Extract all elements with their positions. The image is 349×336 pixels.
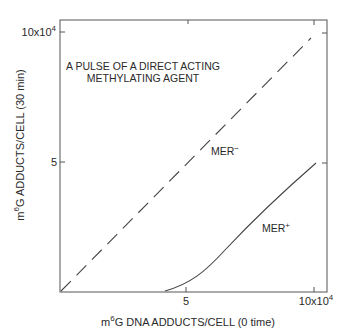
series-mer-plus-label: MER+ [262, 221, 290, 234]
series-mer-minus-label: MER− [211, 144, 239, 157]
chart: 10x104 5 5 10x104 m6G DNA ADDUCTS/CELL (… [0, 0, 349, 336]
series-mer-plus-line [165, 163, 316, 291]
annotation-line-2: METHYLATING AGENT [87, 72, 200, 84]
y-tick-label-5: 5 [51, 156, 57, 168]
annotation-line-1: A PULSE OF A DIRECT ACTING [66, 60, 220, 72]
x-tick-label-5: 5 [183, 295, 189, 307]
y-axis-label: m6G ADDUCTS/CELL (30 min) [12, 69, 26, 220]
y-tick-label-10: 10x104 [22, 24, 57, 38]
x-tick-label-10: 10x104 [299, 293, 334, 307]
x-axis-label: m6G DNA ADDUCTS/CELL (0 time) [101, 314, 275, 328]
